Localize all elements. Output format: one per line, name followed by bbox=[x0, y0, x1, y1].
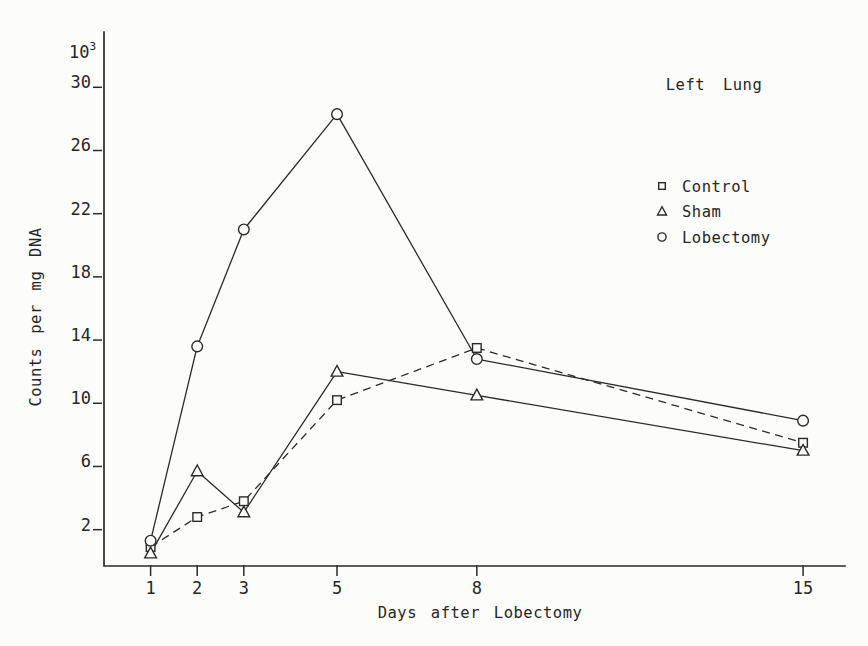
series-control-marker bbox=[473, 344, 482, 353]
series-lobectomy-marker bbox=[238, 224, 249, 235]
series-lobectomy-marker bbox=[798, 415, 809, 426]
x-tick-label: 2 bbox=[192, 578, 202, 598]
series-lobectomy-marker bbox=[332, 109, 343, 120]
legend-item-lobectomy: Lobectomy bbox=[682, 229, 771, 247]
series-control-marker bbox=[333, 396, 342, 405]
series-control-marker bbox=[193, 513, 202, 522]
x-tick-label: 8 bbox=[472, 578, 482, 598]
legend-item-sham: Sham bbox=[682, 203, 721, 221]
y-tick-label: 26 bbox=[71, 135, 91, 155]
series-lobectomy-marker bbox=[192, 341, 203, 352]
legend-label-sham: Sham bbox=[682, 203, 721, 221]
y-axis-label: Counts per mg DNA bbox=[27, 227, 45, 406]
x-tick-label: 3 bbox=[239, 578, 249, 598]
series-sham-marker bbox=[331, 365, 343, 376]
series-lobectomy-marker bbox=[145, 535, 156, 546]
y-tick-label: 2 bbox=[81, 515, 91, 535]
chart-title: Left Lung bbox=[666, 76, 763, 94]
legend-marker-control bbox=[659, 183, 666, 190]
series-lobectomy-marker bbox=[471, 354, 482, 365]
y-tick-label: 6 bbox=[81, 451, 91, 471]
y-tick-label: 10 bbox=[71, 388, 91, 408]
x-tick-label: 15 bbox=[793, 578, 813, 598]
x-axis-label: Days after Lobectomy bbox=[378, 604, 583, 622]
y-scale-label: 103 bbox=[69, 40, 96, 62]
legend-label-lobectomy: Lobectomy bbox=[682, 229, 771, 247]
axes bbox=[104, 32, 845, 566]
legend-item-control: Control bbox=[682, 178, 751, 196]
series-control-marker bbox=[240, 497, 249, 506]
y-tick-label: 14 bbox=[71, 325, 91, 345]
x-tick-label: 1 bbox=[145, 578, 155, 598]
figure-scan: 261014182226301031235815Left LungControl… bbox=[0, 0, 868, 646]
chart-svg: 261014182226301031235815Left LungControl… bbox=[0, 0, 868, 646]
x-tick-label: 5 bbox=[332, 578, 342, 598]
legend-label-control: Control bbox=[682, 178, 751, 196]
legend-marker-sham bbox=[658, 207, 667, 215]
y-tick-label: 18 bbox=[71, 262, 91, 282]
series-sham-marker bbox=[238, 506, 250, 517]
series-sham-marker bbox=[191, 465, 203, 476]
legend-marker-lobectomy bbox=[658, 233, 666, 241]
y-tick-label: 22 bbox=[71, 199, 91, 219]
y-tick-label: 30 bbox=[71, 72, 91, 92]
